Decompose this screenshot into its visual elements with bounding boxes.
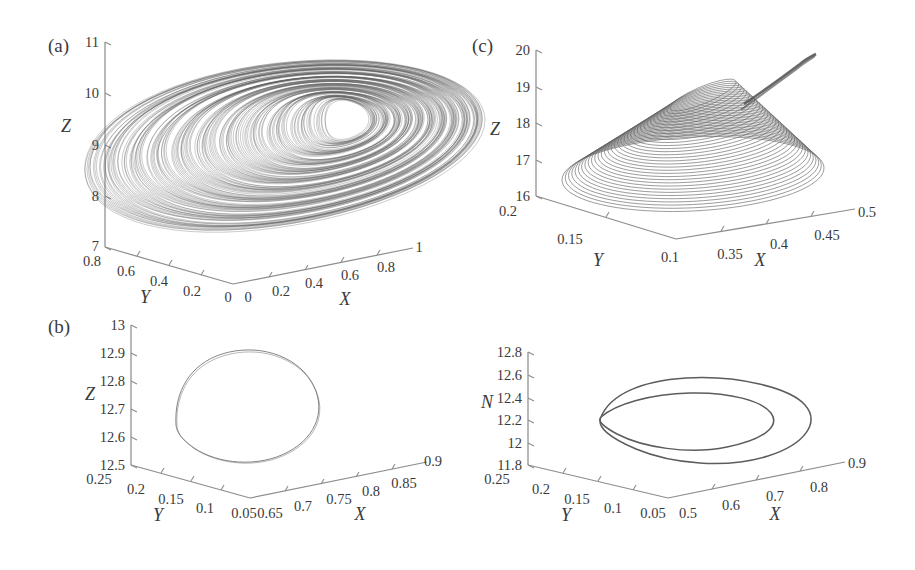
panel-b-z-axis-label: Z: [85, 384, 96, 404]
panel-d-n-ticks: [528, 352, 534, 468]
panel-c-y-tick-0: 0.2: [499, 203, 517, 219]
panel-c-x-tick-3: 0.5: [858, 204, 876, 220]
panel-a-x-tick-2: 0.4: [305, 275, 324, 291]
panel-d-x-tick-2: 0.7: [766, 488, 784, 504]
panel-b-z-tick-3: 12.8: [100, 373, 125, 389]
panel-d-y-tick-3: 0.1: [604, 500, 622, 516]
panel-b-y-tick-1: 0.2: [127, 481, 145, 497]
panel-d-n-tick-3: 12.4: [497, 390, 523, 406]
panel-d-x-tick-0: 0.5: [679, 505, 697, 521]
panel-b-z-tick-5: 13: [111, 317, 126, 333]
panel-c-z-tick-0: 16: [516, 188, 531, 204]
panel-b-y-axis: [131, 465, 250, 498]
panel-a-y-axis-label: Y: [140, 287, 152, 307]
panel-d-y-tick-0: 0.25: [484, 471, 509, 487]
panel-b-y-tick-0: 0.25: [86, 471, 111, 487]
panel-d-x-tick-1: 0.6: [722, 497, 740, 513]
panel-d-n-tick-1: 12: [508, 435, 523, 451]
panel-b-x-tick-0: 0.65: [257, 505, 282, 521]
panel-a-x-tick-1: 0.2: [272, 283, 290, 299]
panel-a-z-tick-0: 7: [92, 238, 99, 254]
panel-a-x-tick-5: 1: [415, 239, 422, 255]
panel-a-y-tick-3: 0.2: [183, 283, 201, 299]
panel-b-x-tick-3: 0.8: [362, 483, 380, 499]
panel-a-x-tick-4: 0.8: [377, 259, 395, 275]
panel-b-x-tick-1: 0.7: [294, 498, 312, 514]
panel-c-y-tick-2: 0.1: [661, 249, 679, 265]
panel-a-tag: (a): [48, 35, 69, 57]
figure-container: (a) 11 10 9 8 7 Z: [0, 0, 915, 570]
panel-d-y-ticks: [563, 468, 636, 490]
panel-c-y-axis-label: Y: [593, 250, 605, 270]
panel-c-tag: (c): [472, 35, 493, 57]
panel-a-x-axis-label: X: [339, 289, 352, 309]
panel-a-y-ticks: [137, 251, 204, 275]
panel-c: (c) 20 19 18 17 16 Z 0.2 0.15 0.1 Y: [472, 35, 876, 270]
panel-c-y-ticks: [606, 212, 609, 217]
panel-b-z-tick-4: 12.9: [100, 345, 125, 361]
panel-a-attractor: [85, 60, 485, 232]
panel-b-z-tick-1: 12.6: [100, 429, 125, 445]
panel-c-z-tick-2: 18: [516, 115, 531, 131]
panel-b-x-tick-5: 0.9: [424, 453, 442, 469]
panel-d-x-tick-3: 0.8: [810, 479, 828, 495]
panel-d-x-tick-4: 0.9: [848, 455, 866, 471]
panel-d-n-axis-label: N: [480, 392, 494, 412]
panel-d-n-tick-5: 12.8: [497, 344, 522, 360]
panel-b-x-tick-2: 0.75: [326, 491, 351, 507]
panel-d-x-ticks: [712, 466, 803, 489]
panel-a-z-tick-3: 10: [85, 85, 100, 101]
panel-c-z-axis-label: Z: [490, 119, 501, 139]
panel-b-x-axis-label: X: [354, 504, 367, 524]
panel-b-z-tick-2: 12.7: [100, 401, 125, 417]
panel-c-z-ticks: [536, 50, 542, 199]
panel-b-y-axis-label: Y: [153, 505, 165, 525]
panel-a-x-tick-0: 0: [244, 289, 251, 305]
panel-d-y-tick-1: 0.2: [532, 481, 550, 497]
panel-c-x-axis-label: X: [754, 250, 767, 270]
panel-c-z-tick-4: 20: [516, 42, 531, 58]
panel-a-y-tick-1: 0.6: [117, 263, 135, 279]
panel-d-orbit: [600, 378, 811, 464]
panel-b-orbit: [176, 350, 320, 463]
panel-d-y-tick-4: 0.05: [640, 505, 665, 521]
panel-a-y-tick-0: 0.8: [83, 253, 101, 269]
panel-c-x-tick-1: 0.4: [770, 236, 789, 252]
panel-b-y-ticks: [161, 468, 224, 490]
panel-c-z-tick-3: 19: [516, 79, 531, 95]
panel-a-y-tick-4: 0: [224, 289, 231, 305]
panel-a-x-tick-3: 0.6: [341, 267, 359, 283]
panel-d-n-tick-4: 12.6: [497, 367, 522, 383]
figure-svg: (a) 11 10 9 8 7 Z: [0, 0, 915, 570]
panel-b-tag: (b): [48, 316, 70, 338]
panel-c-y-tick-1: 0.15: [557, 231, 582, 247]
panel-b-y-tick-3: 0.1: [196, 500, 214, 516]
panel-b: (b) 13 12.9 12.8 12.7 12.6 12.5 Z: [48, 316, 442, 525]
panel-d-n-tick-2: 12.2: [497, 412, 522, 428]
panel-b-z-ticks: [131, 325, 137, 468]
panel-b-x-tick-4: 0.85: [391, 475, 416, 491]
panel-d: 12.8 12.6 12.4 12.2 12 11.8 N 0.25 0.2 0…: [480, 344, 866, 525]
panel-c-x-ticks: [721, 211, 814, 231]
panel-a: (a) 11 10 9 8 7 Z: [48, 34, 485, 309]
panel-a-y-tick-2: 0.4: [150, 273, 169, 289]
panel-c-x-tick-2: 0.45: [814, 227, 839, 243]
panel-b-y-tick-4: 0.05: [231, 505, 256, 521]
panel-a-z-axis-label: Z: [61, 116, 72, 136]
panel-d-x-axis-label: X: [769, 504, 782, 524]
panel-a-z-tick-4: 11: [85, 34, 99, 50]
panel-c-z-tick-1: 17: [516, 152, 531, 168]
panel-c-funnel: [562, 54, 824, 212]
panel-d-y-axis-label: Y: [561, 505, 573, 525]
panel-c-x-tick-0: 0.35: [717, 246, 742, 262]
